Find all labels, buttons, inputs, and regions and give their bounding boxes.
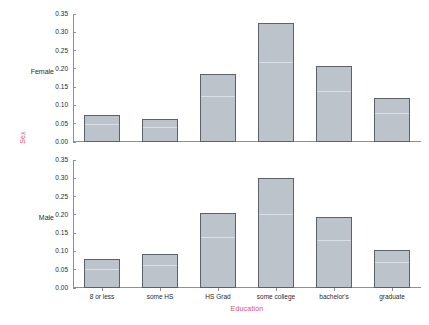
y-tick-label: 0.30 — [55, 173, 68, 182]
bar — [84, 115, 120, 142]
y-tick-label: 0.10 — [55, 246, 68, 255]
bar-group-female — [73, 14, 421, 142]
y-tick-label: 0.20 — [55, 64, 68, 73]
bar-chart-figure: Sex Female 0.000.050.100.150.200.250.300… — [0, 0, 429, 325]
panel-female: Female 0.000.050.100.150.200.250.300.35 — [0, 8, 429, 150]
y-tick-label: 0.35 — [55, 9, 68, 18]
bar — [374, 250, 410, 288]
panel-label-male: Male — [12, 214, 54, 221]
bar — [142, 254, 178, 288]
y-tick-label: 0.00 — [55, 137, 68, 146]
panel-label-female: Female — [12, 68, 54, 75]
y-tick-label: 0.20 — [55, 210, 68, 219]
y-tick-label: 0.10 — [55, 100, 68, 109]
y-tick-label: 0.15 — [55, 82, 68, 91]
y-tick-label: 0.15 — [55, 228, 68, 237]
y-tick-label: 0.25 — [55, 46, 68, 55]
x-tick-mark — [218, 288, 219, 291]
bar — [316, 66, 352, 142]
x-tick-label: some college — [257, 293, 295, 300]
x-tick-mark — [102, 288, 103, 291]
x-tick-mark — [160, 288, 161, 291]
y-tick-label: 0.30 — [55, 27, 68, 36]
bar — [316, 217, 352, 288]
bar — [84, 259, 120, 288]
x-tick-mark — [392, 288, 393, 291]
x-tick-label: 8 or less — [90, 293, 115, 300]
x-tick-label: graduate — [379, 293, 405, 300]
bar — [200, 74, 236, 142]
bar — [258, 178, 294, 288]
bar — [374, 98, 410, 142]
bar — [258, 23, 294, 142]
x-tick-label: HS Grad — [205, 293, 230, 300]
y-tick-label: 0.25 — [55, 192, 68, 201]
y-tick-label: 0.00 — [55, 283, 68, 292]
x-tick-mark — [334, 288, 335, 291]
x-tick-label: some HS — [147, 293, 174, 300]
bar-group-male — [73, 160, 421, 288]
panel-male: Male 0.000.050.100.150.200.250.300.35 — [0, 154, 429, 296]
y-tick-label: 0.05 — [55, 265, 68, 274]
y-tick-label: 0.35 — [55, 155, 68, 164]
plot-area-male: 0.000.050.100.150.200.250.300.35 — [73, 160, 421, 288]
y-tick-label: 0.05 — [55, 119, 68, 128]
plot-area-female: 0.000.050.100.150.200.250.300.35 — [73, 14, 421, 142]
x-tick-mark — [276, 288, 277, 291]
x-axis-label: Education — [73, 305, 421, 312]
bar — [142, 119, 178, 142]
x-tick-label: bachelor's — [319, 293, 348, 300]
bar — [200, 213, 236, 288]
